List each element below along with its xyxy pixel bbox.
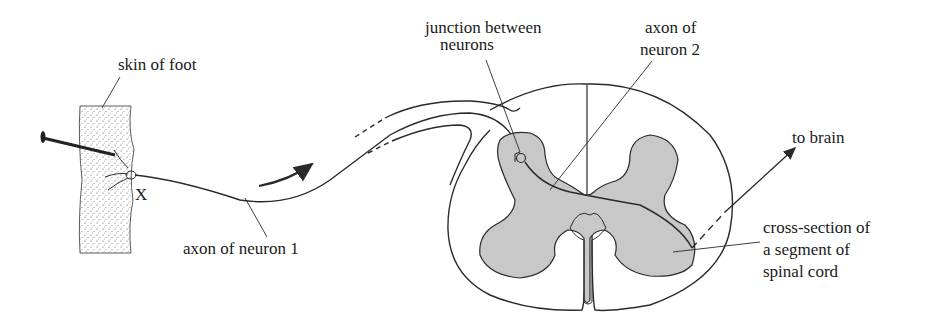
label-cross-section-2: a segment of <box>763 240 850 259</box>
label-axon-neuron-2-1: axon of <box>645 18 697 37</box>
axon-neuron-1 <box>135 135 390 202</box>
leader-skin <box>102 77 120 108</box>
label-to-brain: to brain <box>792 128 845 147</box>
label-junction-2: neurons <box>440 35 494 54</box>
label-cross-section-1: cross-section of <box>763 218 871 237</box>
label-x: X <box>135 185 147 204</box>
skin-of-foot <box>79 106 134 253</box>
direction-arrow-icon <box>259 164 312 186</box>
label-skin-of-foot: skin of foot <box>118 55 197 74</box>
leader-axon1 <box>245 198 267 237</box>
to-brain-arrow-icon <box>725 148 795 212</box>
label-cross-section-3: spinal cord <box>763 262 839 281</box>
reflex-diagram: skin of foot X axon of neuron 1 junction… <box>0 0 932 320</box>
label-axon-neuron-2-2: neuron 2 <box>640 40 700 59</box>
label-axon-neuron-1: axon of neuron 1 <box>183 239 299 258</box>
